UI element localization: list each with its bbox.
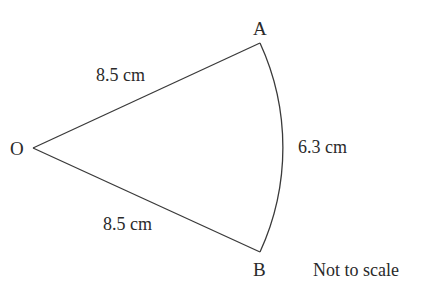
length-label-oa: 8.5 cm — [96, 65, 145, 85]
length-label-arc: 6.3 cm — [298, 137, 347, 157]
length-label-ob: 8.5 cm — [103, 214, 152, 234]
arc-ab — [260, 43, 283, 252]
point-label-o: O — [10, 138, 24, 159]
radius-ob — [33, 148, 260, 252]
not-to-scale-note: Not to scale — [313, 260, 399, 280]
point-label-a: A — [253, 18, 267, 39]
point-label-b: B — [253, 259, 266, 280]
sector-diagram: A O B 8.5 cm 8.5 cm 6.3 cm Not to scale — [0, 0, 430, 293]
radius-oa — [33, 43, 260, 148]
